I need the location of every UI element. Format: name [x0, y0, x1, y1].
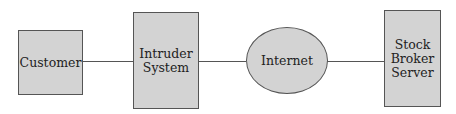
- node-intruder-system: Intruder System: [133, 12, 199, 109]
- network-diagram: Customer Intruder System Internet Stock …: [0, 0, 456, 114]
- node-label: Customer: [20, 56, 82, 70]
- edge-customer-intruder: [82, 61, 133, 62]
- node-stock-broker-server: Stock Broker Server: [384, 10, 441, 107]
- node-label: Stock Broker Server: [391, 38, 435, 80]
- node-internet: Internet: [246, 27, 328, 94]
- edge-intruder-internet: [198, 61, 246, 62]
- node-customer: Customer: [18, 30, 83, 95]
- edge-internet-server: [327, 61, 384, 62]
- node-label: Internet: [261, 54, 313, 68]
- node-label: Intruder System: [139, 47, 192, 75]
